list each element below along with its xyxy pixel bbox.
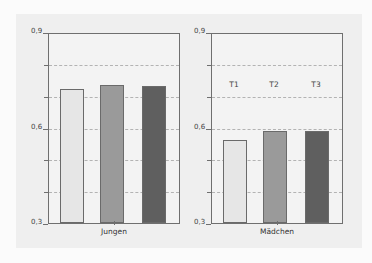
y-minor-tick [44, 65, 48, 66]
y-minor-tick [207, 97, 211, 98]
y-tick-label: 0,3 [31, 218, 42, 226]
y-minor-tick [207, 192, 211, 193]
gridline [212, 97, 342, 98]
y-tick [43, 224, 48, 225]
y-tick-label: 0,9 [194, 27, 205, 35]
y-minor-tick [44, 97, 48, 98]
x-tick [277, 221, 278, 225]
y-tick [206, 224, 211, 225]
x-axis-label: Jungen [84, 227, 144, 236]
y-tick [206, 129, 211, 130]
series-label-t1: T1 [222, 80, 246, 89]
series-label-t3: T3 [304, 80, 328, 89]
series-label-t2: T2 [262, 80, 286, 89]
x-axis-label: Mädchen [247, 227, 307, 236]
bar-t1 [223, 140, 247, 223]
y-tick [206, 33, 211, 34]
y-minor-tick [207, 160, 211, 161]
bar-t3 [142, 86, 166, 223]
y-tick [43, 129, 48, 130]
plot-area-jungen [48, 33, 180, 224]
plot-area-maedchen [211, 33, 343, 224]
bar-t1 [60, 89, 84, 223]
y-minor-tick [44, 192, 48, 193]
y-minor-tick [207, 65, 211, 66]
y-minor-tick [44, 160, 48, 161]
gridline [212, 65, 342, 66]
bar-t2 [263, 131, 287, 223]
x-tick [114, 221, 115, 225]
y-tick-label: 0,3 [194, 218, 205, 226]
y-tick [43, 33, 48, 34]
bar-t2 [100, 85, 124, 223]
bar-t3 [305, 131, 329, 223]
y-tick-label: 0,6 [31, 123, 42, 131]
y-tick-label: 0,6 [194, 123, 205, 131]
gridline [49, 65, 179, 66]
gridline [212, 129, 342, 130]
y-tick-label: 0,9 [31, 27, 42, 35]
